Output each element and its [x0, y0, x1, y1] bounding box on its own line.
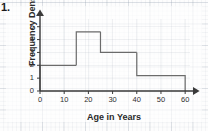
x-tick-label: 10	[56, 96, 72, 104]
x-tick-label: 0	[32, 96, 48, 104]
x-tick-label: 20	[80, 96, 96, 104]
y-tick-label: 3	[22, 48, 34, 56]
y-tick-label: 2	[22, 61, 34, 69]
x-tick-label: 60	[177, 96, 193, 104]
gridlines-group	[40, 19, 190, 91]
question-number: 1.	[1, 2, 10, 13]
y-tick-label: 5	[22, 23, 34, 31]
x-tick-label: 30	[105, 96, 121, 104]
y-tick-label: 1	[22, 74, 34, 82]
y-tick-label: 0	[22, 87, 34, 95]
x-tick-label: 40	[129, 96, 145, 104]
y-tick-label: 4	[22, 36, 34, 44]
tick-marks	[37, 27, 185, 94]
histogram-bar	[100, 32, 136, 53]
plot-area: 0102030405060012345	[12, 8, 206, 128]
x-tick-label: 50	[153, 96, 169, 104]
histogram-chart: Frequency Density Age in Years 010203040…	[12, 8, 206, 128]
chart-svg	[12, 8, 206, 128]
